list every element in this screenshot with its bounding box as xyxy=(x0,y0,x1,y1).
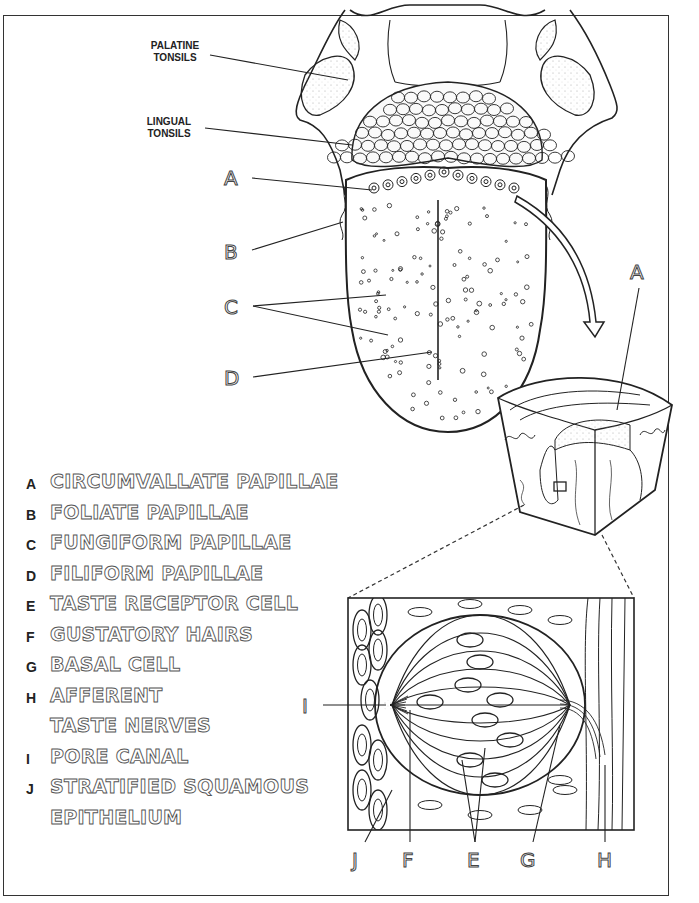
legend-term: GUSTATORY HAIRS xyxy=(50,623,253,645)
bud-label-g: G xyxy=(520,850,536,870)
legend-term: AFFERENT xyxy=(50,684,163,706)
callout-line: TONSILS xyxy=(138,128,200,140)
legend-key: J xyxy=(26,781,40,797)
tongue-anatomy-illustration xyxy=(0,0,699,903)
tongue-label-b: B xyxy=(224,242,238,262)
tonsil-nodule xyxy=(549,152,562,163)
legend-term: EPITHELIUM xyxy=(50,806,182,828)
legend-term: FUNGIFORM PAPILLAE xyxy=(50,531,291,553)
cube-label-a: A xyxy=(630,262,644,282)
legend-key: F xyxy=(26,629,40,645)
legend-key: E xyxy=(26,598,40,614)
legend-term: BASAL CELL xyxy=(50,653,180,675)
palatine-tonsil-left xyxy=(301,56,354,115)
callout-line: LINGUAL xyxy=(138,116,200,128)
tonsil-nodule xyxy=(544,140,557,151)
legend-term: STRATIFIED SQUAMOUS xyxy=(50,775,309,797)
legend-key: H xyxy=(26,690,40,706)
palatine-tonsil-right xyxy=(541,56,594,115)
legend-key: A xyxy=(26,476,40,492)
tonsil-nodule xyxy=(336,140,349,151)
leader-lingual xyxy=(205,128,352,145)
bud-label-e: E xyxy=(467,850,480,870)
callout-lingual-tonsils: LINGUAL TONSILS xyxy=(138,116,200,140)
callout-palatine-tonsils: PALATINE TONSILS xyxy=(140,40,210,64)
bud-label-h: H xyxy=(597,850,612,870)
legend-key: G xyxy=(26,659,40,675)
legend-term: PORE CANAL xyxy=(50,745,189,767)
tongue-drawing xyxy=(296,5,617,432)
legend-term: FOLIATE PAPILLAE xyxy=(50,501,249,523)
legend-term: CIRCUMVALLATE PAPILLAE xyxy=(50,470,338,492)
bud-label-f: F xyxy=(402,850,414,870)
legend-term: TASTE NERVES xyxy=(50,714,211,736)
taste-bud-detail xyxy=(348,595,634,830)
legend-key: C xyxy=(26,537,40,553)
tongue-label-c: C xyxy=(224,297,238,317)
bud-label-j: J xyxy=(352,850,358,870)
epiglottis xyxy=(350,5,545,16)
leader-B xyxy=(252,222,343,250)
legend-key: I xyxy=(26,751,40,767)
callout-line: TONSILS xyxy=(140,52,210,64)
legend-key: B xyxy=(26,507,40,523)
bud-label-i: I xyxy=(302,696,308,716)
legend-key: D xyxy=(26,568,40,584)
tongue-label-d: D xyxy=(224,368,239,388)
tongue-label-a: A xyxy=(224,168,238,188)
callout-line: PALATINE xyxy=(140,40,210,52)
legend-term: FILIFORM PAPILLAE xyxy=(50,562,263,584)
papilla-cross-section-cube xyxy=(498,378,672,535)
legend-term: TASTE RECEPTOR CELL xyxy=(50,592,298,614)
